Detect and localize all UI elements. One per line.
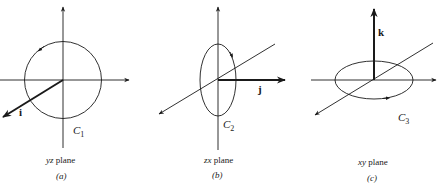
panel-c-vector-label: k [378, 26, 384, 38]
panel-c-tag: (c) [367, 173, 377, 183]
panel-b-plane-var: zx [204, 155, 212, 165]
panel-c-plane-caption: xy plane [358, 157, 388, 167]
panel-c-orientation-arrow-icon [383, 98, 388, 99]
panel-a-plane-caption: yz plane [46, 155, 75, 165]
panel-b-plane-word: plane [212, 155, 234, 165]
panel-a-tag: (a) [56, 171, 67, 181]
three-plane-curve-diagram: i C1 yz plane (a) j C2 zx plane (b) k C3… [0, 0, 437, 185]
panel-b-plane-caption: zx plane [204, 155, 233, 165]
panel-a-curve-subscript: 1 [80, 130, 84, 139]
panel-c-curve-label: C3 [398, 111, 409, 126]
panel-a-plane-word: plane [54, 155, 76, 165]
panel-a [0, 7, 129, 148]
panel-a-plane-var: yz [46, 155, 54, 165]
panel-a-vector-label: i [19, 106, 22, 118]
panel-b [159, 7, 285, 150]
panel-a-vector-i-arrow [3, 80, 63, 117]
panel-a-orientation-arrow-icon [40, 47, 45, 51]
panel-b-curve-subscript: 2 [230, 124, 234, 133]
panel-c-plane-word: plane [366, 157, 388, 167]
panel-b-curve-label: C2 [223, 118, 234, 133]
panel-c-plane-var: xy [358, 157, 366, 167]
panel-c [311, 9, 436, 115]
panel-a-curve-label: C1 [73, 124, 84, 139]
panel-b-vector-label: j [258, 83, 262, 95]
panel-b-tag: (b) [212, 170, 223, 180]
panel-c-curve-subscript: 3 [405, 117, 409, 126]
